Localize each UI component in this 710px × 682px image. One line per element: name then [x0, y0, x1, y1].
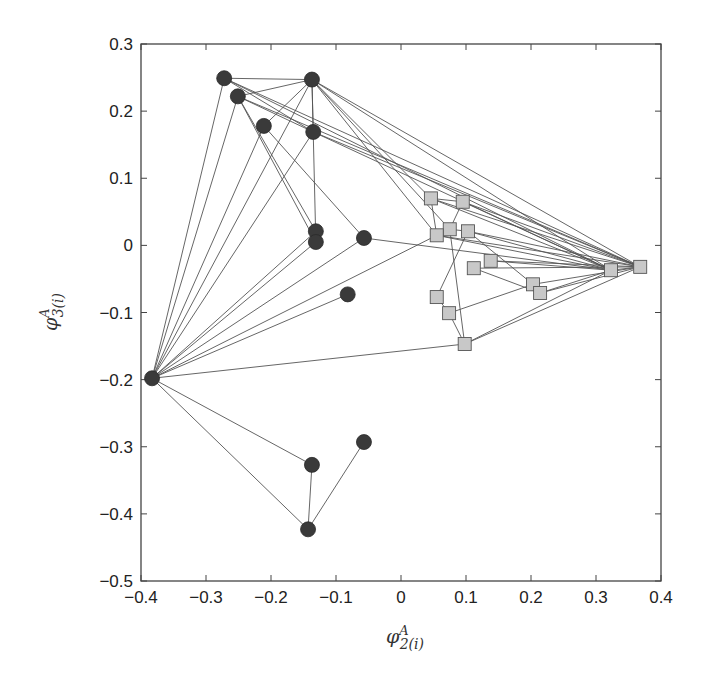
square-marker-S9: [534, 287, 547, 300]
square-marker-S3: [443, 223, 456, 236]
circle-marker-B: [304, 72, 319, 87]
circle-marker-J: [340, 287, 355, 302]
circle-marker-G: [308, 235, 323, 250]
network-edges: [152, 78, 640, 529]
edge-line: [450, 229, 465, 344]
circle-marker-L: [356, 435, 371, 450]
data-markers: [145, 71, 647, 537]
edge-line: [152, 235, 437, 378]
edge-line: [313, 132, 640, 267]
edge-line: [449, 284, 533, 313]
y-tick-label: −0.2: [99, 371, 133, 390]
edge-line: [152, 96, 238, 378]
x-tick-label: 0.4: [649, 588, 673, 607]
y-tick-label: −0.4: [99, 505, 133, 524]
square-marker-S13: [604, 264, 617, 277]
edge-line: [152, 344, 465, 378]
y-tick-label: −0.5: [99, 572, 133, 591]
edge-line: [152, 378, 308, 529]
x-axis-label: φA2(i): [386, 623, 424, 652]
plot-frame: [141, 44, 661, 581]
y-tick-label: −0.3: [99, 438, 133, 457]
square-marker-S5: [461, 225, 474, 238]
y-tick-label: 0.2: [109, 102, 133, 121]
square-marker-S4: [430, 229, 443, 242]
y-axis-label: φA3(i): [37, 293, 66, 331]
x-tick-label: 0.3: [584, 588, 608, 607]
square-marker-S6: [484, 254, 497, 267]
y-tick-labels: 0.30.20.10−0.1−0.2−0.3−0.4−0.5: [99, 35, 133, 591]
x-tick-label: −0.2: [254, 588, 288, 607]
edge-line: [264, 80, 312, 126]
scatter-network-chart: −0.4−0.3−0.2−0.100.10.20.30.4 0.30.20.10…: [0, 0, 710, 682]
x-tick-label: −0.1: [319, 588, 353, 607]
plot-axes: [141, 44, 661, 581]
edge-line: [152, 78, 224, 378]
square-marker-S10: [430, 291, 443, 304]
edge-line: [224, 78, 312, 79]
edge-line: [468, 231, 533, 284]
y-tick-label: 0: [124, 236, 133, 255]
circle-marker-E: [306, 124, 321, 139]
square-marker-S2: [456, 195, 469, 208]
edge-line: [152, 378, 312, 465]
y-tick-label: −0.1: [99, 304, 133, 323]
edge-line: [224, 78, 611, 270]
edge-line: [308, 465, 312, 529]
edge-line: [152, 238, 364, 378]
edge-line: [152, 80, 312, 379]
circle-marker-M: [301, 522, 316, 537]
edge-line: [152, 242, 316, 378]
edge-line: [152, 294, 348, 378]
edge-line: [312, 80, 316, 242]
edge-line: [465, 267, 641, 344]
x-tick-labels: −0.4−0.3−0.2−0.100.10.20.30.4: [124, 588, 673, 607]
x-tick-label: −0.3: [189, 588, 223, 607]
y-tick-label: 0.1: [109, 169, 133, 188]
y-tick-label: 0.3: [109, 35, 133, 54]
circle-marker-C: [230, 89, 245, 104]
x-tick-label: 0.1: [454, 588, 478, 607]
square-marker-S12: [458, 338, 471, 351]
circle-marker-I: [145, 371, 160, 386]
x-tick-label: 0: [396, 588, 405, 607]
edge-line: [238, 96, 316, 231]
edge-line: [152, 126, 264, 378]
circle-marker-A: [217, 71, 232, 86]
square-marker-S7: [467, 262, 480, 275]
circle-marker-H: [356, 230, 371, 245]
edge-line: [238, 80, 312, 97]
x-tick-label: 0.2: [519, 588, 543, 607]
edge-line: [312, 80, 611, 271]
square-marker-S14: [634, 260, 647, 273]
circle-marker-D: [256, 118, 271, 133]
square-marker-S11: [443, 307, 456, 320]
square-marker-S1: [424, 192, 437, 205]
circle-marker-K: [304, 457, 319, 472]
edge-line: [533, 267, 640, 284]
edge-line: [308, 442, 364, 529]
